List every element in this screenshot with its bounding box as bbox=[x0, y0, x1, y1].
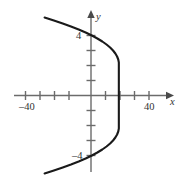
coordinate-plane: –40 40 4 –4 x y bbox=[0, 0, 185, 180]
y-axis-variable-label: y bbox=[95, 11, 101, 22]
y-axis-label-4: 4 bbox=[76, 30, 82, 41]
y-axis-label-minus-4: –4 bbox=[71, 150, 83, 161]
graph-figure: –40 40 4 –4 x y bbox=[0, 0, 185, 180]
x-axis-label-40: 40 bbox=[144, 101, 155, 112]
x-axis-label-minus-40: –40 bbox=[18, 101, 35, 112]
x-axis-variable-label: x bbox=[169, 96, 175, 107]
y-axis-arrow-icon bbox=[87, 10, 94, 18]
